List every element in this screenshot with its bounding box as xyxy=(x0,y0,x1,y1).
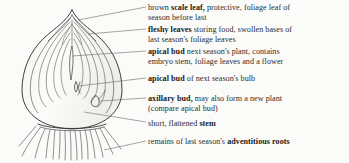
label-adventitious-roots: remains of last season's adventitious ro… xyxy=(148,137,290,147)
label-axillary-bud: axillary bud, may also form a new plant … xyxy=(148,94,282,113)
label-axillary-bud-rest: may also form a new plant xyxy=(193,94,282,103)
label-apical-bud-plant-rest: next season's plant, contains xyxy=(185,47,280,56)
figure-canvas: brown scale leaf, protective, foliage le… xyxy=(0,0,349,163)
label-stem: short, flattened stem xyxy=(148,119,216,129)
label-scale-leaf: brown scale leaf, protective, foliage le… xyxy=(148,3,290,22)
label-fleshy-leaves-line2: last season's foliage leaves xyxy=(148,35,236,44)
label-apical-bud-bulb-term: apical bud xyxy=(148,74,185,83)
label-scale-leaf-line2: season before last xyxy=(148,13,206,22)
label-apical-bud-plant-line2: embryo stem, foliage leaves and a flower xyxy=(148,57,283,66)
label-stem-lead: short, flattened xyxy=(148,119,199,128)
label-fleshy-leaves: fleshy leaves storing food, swollen base… xyxy=(148,25,292,44)
label-axillary-bud-term: axillary bud, xyxy=(148,94,193,103)
label-axillary-bud-line2: (compare apical bud) xyxy=(148,104,218,113)
label-adventitious-roots-lead: remains of last season's xyxy=(148,137,227,146)
label-adventitious-roots-term: adventitious roots xyxy=(227,137,290,146)
label-scale-leaf-rest: protective, foliage leaf of xyxy=(205,3,290,12)
label-apical-bud-plant: apical bud next season's plant, contains… xyxy=(148,47,283,66)
label-list: brown scale leaf, protective, foliage le… xyxy=(0,0,349,163)
label-scale-leaf-term: scale leaf, xyxy=(171,3,205,12)
label-fleshy-leaves-term: fleshy leaves xyxy=(148,25,192,34)
label-stem-term: stem xyxy=(199,119,215,128)
label-apical-bud-plant-term: apical bud xyxy=(148,47,185,56)
label-fleshy-leaves-rest: storing food, swollen bases of xyxy=(192,25,292,34)
label-apical-bud-bulb-rest: of next season's bulb xyxy=(185,74,255,83)
label-apical-bud-bulb: apical bud of next season's bulb xyxy=(148,74,255,84)
label-scale-leaf-lead: brown xyxy=(148,3,171,12)
